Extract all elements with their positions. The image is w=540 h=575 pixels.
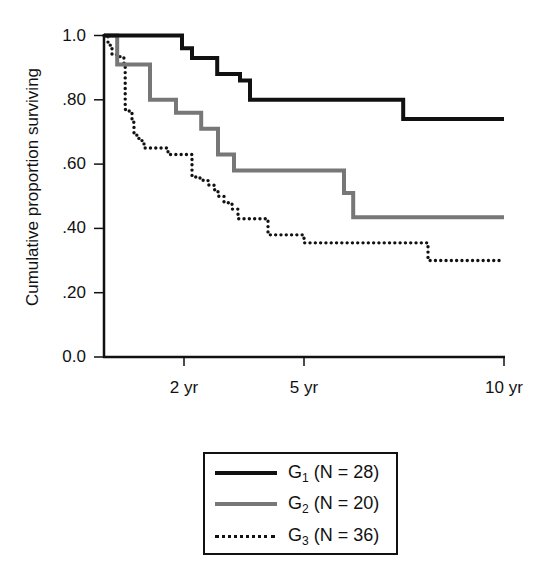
plot-area xyxy=(104,36,504,261)
legend-label: G3 (N = 36) xyxy=(288,525,379,548)
y-tick-label: .20 xyxy=(46,283,86,303)
legend-swatch-dotted-black xyxy=(215,535,275,538)
legend-label: G1 (N = 28) xyxy=(288,462,379,485)
y-tick-label: .60 xyxy=(46,154,86,174)
legend-swatch-solid-gray xyxy=(215,502,277,506)
y-tick-label: .80 xyxy=(46,90,86,110)
legend: G1 (N = 28) G2 (N = 20) G3 (N = 36) xyxy=(203,452,398,555)
y-tick-label: 0.0 xyxy=(46,347,86,367)
legend-item-g3: G3 (N = 36) xyxy=(215,525,395,549)
series-1-curve xyxy=(104,36,504,120)
x-tick-label: 2 yr xyxy=(170,378,198,398)
y-tick-label: .40 xyxy=(46,218,86,238)
x-tick-label: 5 yr xyxy=(290,378,318,398)
legend-label: G2 (N = 20) xyxy=(288,493,379,516)
y-tick-label: 1.0 xyxy=(46,26,86,46)
legend-item-g2: G2 (N = 20) xyxy=(215,493,395,517)
y-axis-label: Cumulative proportion surviving xyxy=(23,68,43,306)
series-2-curve xyxy=(104,36,504,218)
axes xyxy=(94,35,505,367)
series-3-curve xyxy=(104,36,500,261)
legend-swatch-solid-black xyxy=(215,471,277,475)
legend-item-g1: G1 (N = 28) xyxy=(215,462,395,486)
x-tick-label: 10 yr xyxy=(485,378,523,398)
